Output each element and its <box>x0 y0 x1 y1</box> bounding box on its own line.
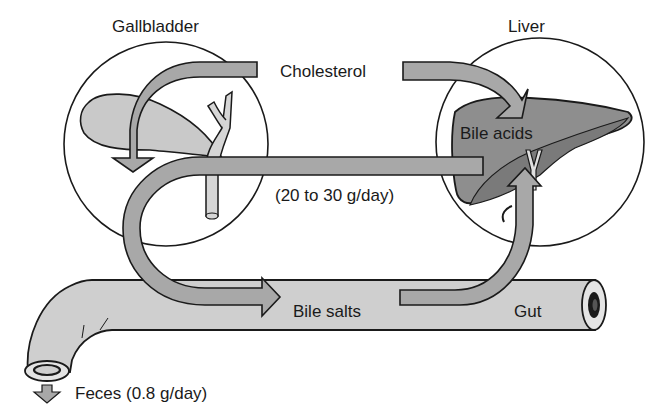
feces-arrow-icon <box>34 385 60 403</box>
gut-tube <box>25 280 606 381</box>
recirculation-rate-label: (20 to 30 g/day) <box>275 187 394 204</box>
enterohepatic-circulation-diagram: Gallbladder Liver Cholesterol Bile acids… <box>0 0 655 419</box>
cholesterol-to-gallbladder-arrow <box>113 62 257 172</box>
gallbladder-label: Gallbladder <box>112 18 199 35</box>
feces-label: Feces (0.8 g/day) <box>75 385 207 402</box>
bile-acids-label: Bile acids <box>460 125 533 142</box>
gallbladder-organ <box>81 92 232 219</box>
cholesterol-label: Cholesterol <box>280 63 366 80</box>
liver-label: Liver <box>508 18 545 35</box>
gut-label: Gut <box>514 303 541 320</box>
bile-salts-label: Bile salts <box>293 303 361 320</box>
